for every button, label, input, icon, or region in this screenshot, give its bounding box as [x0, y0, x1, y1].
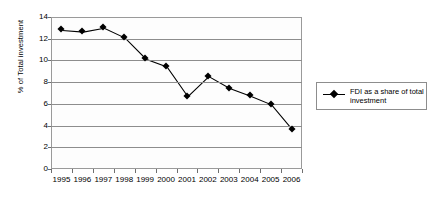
legend-label: FDI as a share of total investment	[350, 87, 426, 105]
gridline	[51, 126, 302, 127]
y-tick-label: 0	[18, 165, 48, 173]
y-tick-mark	[48, 17, 51, 18]
y-tick-mark	[48, 39, 51, 40]
y-tick-label: 4	[18, 122, 48, 130]
x-tick-mark	[302, 169, 303, 173]
gridline	[51, 82, 302, 83]
x-tick-mark	[197, 169, 198, 173]
fdi-share-line-chart: % of Total investment 02468101214 199519…	[0, 0, 434, 206]
y-tick-label: 14	[18, 13, 48, 21]
x-tick-mark	[51, 169, 52, 173]
y-tick-mark	[48, 147, 51, 148]
x-tick-label: 2006	[280, 176, 304, 184]
x-tick-mark	[135, 169, 136, 173]
gridline	[51, 104, 302, 105]
x-tick-mark	[177, 169, 178, 173]
y-tick-mark	[48, 104, 51, 105]
y-tick-label: 12	[18, 35, 48, 43]
gridline	[51, 39, 302, 40]
y-tick-label: 10	[18, 56, 48, 64]
x-tick-mark	[218, 169, 219, 173]
legend-marker-icon	[323, 90, 345, 99]
x-tick-mark	[114, 169, 115, 173]
y-tick-label: 8	[18, 78, 48, 86]
y-tick-mark	[48, 82, 51, 83]
x-tick-mark	[156, 169, 157, 173]
y-tick-mark	[48, 126, 51, 127]
y-tick-mark	[48, 60, 51, 61]
x-tick-mark	[72, 169, 73, 173]
x-tick-mark	[93, 169, 94, 173]
x-tick-mark	[260, 169, 261, 173]
x-tick-mark	[281, 169, 282, 173]
gridline	[51, 60, 302, 61]
x-tick-mark	[239, 169, 240, 173]
gridline	[51, 147, 302, 148]
legend: FDI as a share of total investment	[316, 82, 427, 110]
y-tick-label: 6	[18, 100, 48, 108]
y-tick-label: 2	[18, 143, 48, 151]
